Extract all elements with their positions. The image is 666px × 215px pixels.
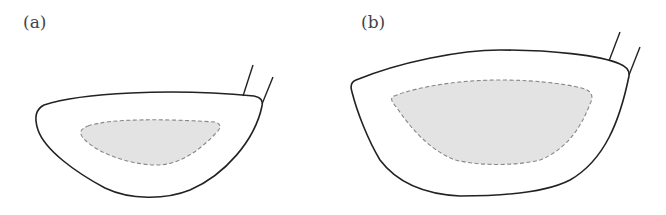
hosel-a-left	[243, 65, 253, 96]
hosel-b-left	[609, 32, 620, 61]
sweet-spot-b	[392, 80, 592, 165]
hosel-b-right	[629, 47, 640, 75]
sweet-spot-a	[81, 120, 220, 165]
club-head-b	[351, 32, 640, 196]
hosel-a-right	[262, 77, 273, 104]
diagram-canvas	[0, 0, 666, 215]
club-head-a	[36, 65, 273, 197]
